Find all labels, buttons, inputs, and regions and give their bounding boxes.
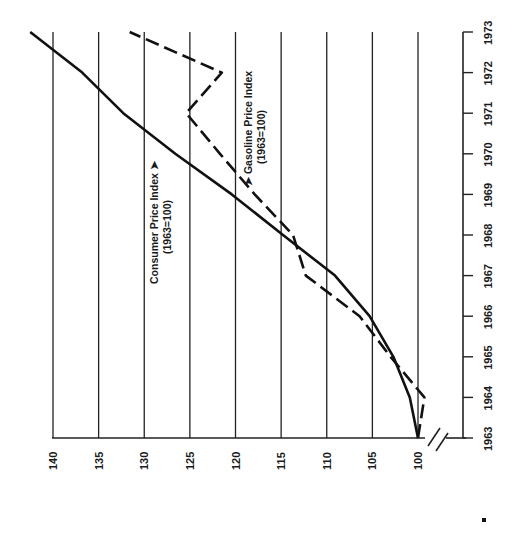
tick-labels: 1001051101151201251301351401963196419651… (47, 21, 494, 470)
series-lines (30, 32, 424, 438)
cpi-label-line2: (1963=100) (161, 200, 173, 254)
year-tick-label: 1968 (482, 224, 494, 248)
cpi-annotation: Consumer Price Index ➤ (1963=100) (148, 160, 173, 284)
year-tick-label: 1964 (482, 385, 494, 410)
year-tick-label: 1973 (482, 21, 494, 45)
value-tick-label: 100 (412, 452, 424, 470)
year-tick-label: 1972 (482, 61, 494, 85)
gasoline-label-line2: (1963=100) (255, 110, 267, 164)
value-tick-label: 110 (321, 452, 333, 470)
cpi-line (30, 32, 418, 438)
value-tick-label: 120 (230, 452, 242, 470)
year-tick-label: 1963 (482, 427, 494, 451)
year-tick-label: 1970 (482, 142, 494, 166)
gasoline-label-line1: ➤ Gasoline Price Index (242, 71, 254, 186)
year-tick-label: 1967 (482, 264, 494, 288)
gridlines (53, 32, 418, 438)
gasoline-annotation: ➤ Gasoline Price Index (1963=100) (242, 71, 267, 186)
axis-break-mark (428, 428, 440, 446)
value-tick-label: 115 (275, 452, 287, 470)
year-tick-label: 1966 (482, 305, 494, 329)
cpi-label-line1: Consumer Price Index ➤ (148, 160, 160, 284)
gasoline-line (130, 32, 425, 438)
value-tick-label: 105 (366, 452, 378, 470)
value-tick-label: 135 (93, 452, 105, 470)
value-tick-label: 125 (184, 452, 196, 470)
value-tick-label: 140 (47, 452, 59, 470)
year-tick-label: 1965 (482, 345, 494, 369)
year-tick-label: 1971 (482, 102, 494, 126)
line-chart: 1001051101151201251301351401963196419651… (0, 0, 517, 533)
page-mark (482, 518, 486, 522)
value-tick-label: 130 (138, 452, 150, 470)
year-tick-label: 1969 (482, 183, 494, 207)
